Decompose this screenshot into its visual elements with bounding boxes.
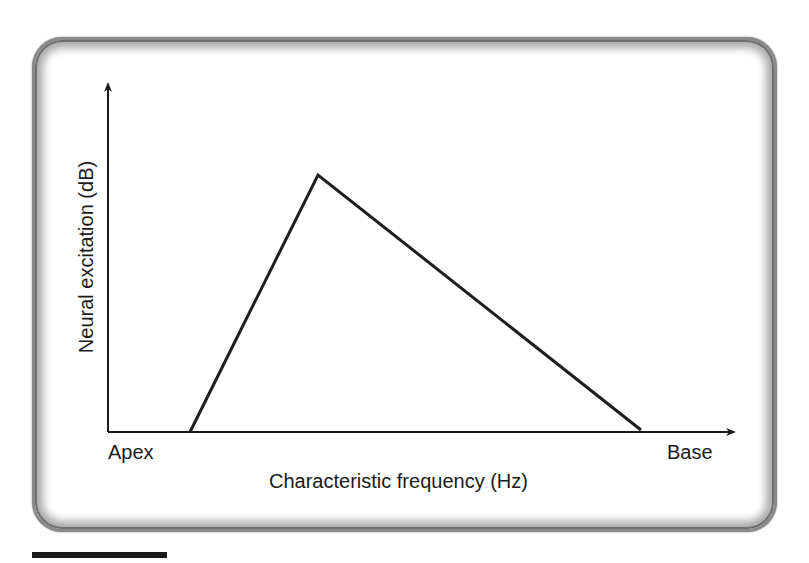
apex-label: Apex — [108, 441, 154, 464]
decorative-bar — [32, 552, 167, 558]
x-axis-label: Characteristic frequency (Hz) — [269, 470, 528, 493]
base-label: Base — [667, 441, 713, 464]
excitation-pattern-line — [190, 175, 641, 432]
y-axis-label: Neural excitation (dB) — [75, 161, 98, 353]
